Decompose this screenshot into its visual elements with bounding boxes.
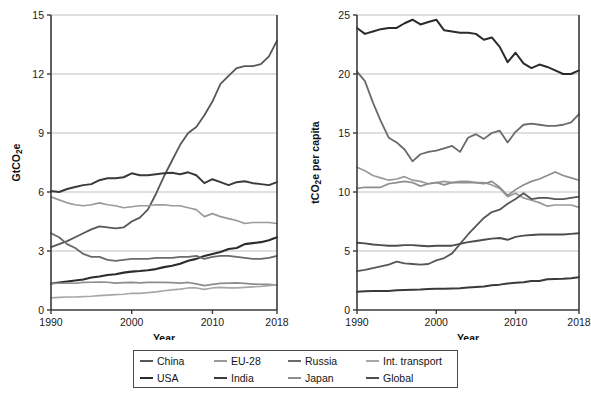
legend-item-int-transport[interactable]: Int. transport [366, 353, 461, 370]
line-chart-right: 05101520251990200020102018YeartCO2e per … [300, 0, 591, 340]
legend-item-global[interactable]: Global [366, 370, 461, 387]
series-line-china [51, 41, 277, 248]
y-tick-label: 0 [344, 304, 350, 316]
legend-label: Japan [305, 372, 334, 384]
legend-swatch-icon [140, 377, 153, 379]
chart-panel-right: 05101520251990200020102018YeartCO2e per … [300, 0, 591, 340]
legend-swatch-icon [288, 377, 301, 379]
series-line-int-transport [51, 285, 277, 298]
legend-swatch-icon [214, 360, 227, 362]
legend-item-usa[interactable]: USA [140, 370, 214, 387]
legend-swatch-icon [366, 360, 379, 362]
x-tick-label: 1990 [345, 316, 369, 328]
series-line-russia [357, 72, 579, 162]
series-line-india [357, 277, 579, 292]
y-tick-label: 9 [38, 127, 44, 139]
legend-item-india[interactable]: India [214, 370, 288, 387]
legend-label: Int. transport [383, 355, 442, 367]
legend-label: Russia [305, 355, 337, 367]
legend-item-china[interactable]: China [140, 353, 214, 370]
line-chart-left: 036912151990200020102018YearGtCO2e [0, 0, 300, 340]
legend-label: Global [383, 372, 413, 384]
y-tick-label: 5 [344, 245, 350, 257]
x-tick-label: 2000 [120, 316, 144, 328]
series-line-india [51, 237, 277, 283]
y-tick-label: 6 [38, 186, 44, 198]
legend-swatch-icon [214, 377, 227, 379]
chart-legend: ChinaEU-28RussiaInt. transportUSAIndiaJa… [133, 350, 458, 388]
legend-label: India [231, 372, 254, 384]
figure-root: 036912151990200020102018YearGtCO2e 05101… [0, 0, 591, 395]
legend-item-eu-28[interactable]: EU-28 [214, 353, 288, 370]
y-axis-title: GtCO2e [10, 143, 24, 181]
x-tick-label: 2010 [504, 316, 528, 328]
y-tick-label: 15 [338, 127, 350, 139]
legend-item-japan[interactable]: Japan [288, 370, 366, 387]
legend-swatch-icon [366, 377, 379, 379]
chart-panel-left: 036912151990200020102018YearGtCO2e [0, 0, 300, 340]
x-tick-label: 2018 [265, 316, 289, 328]
series-line-eu-28 [51, 197, 277, 224]
legend-swatch-icon [288, 360, 301, 362]
series-line-eu-28 [357, 167, 579, 207]
y-tick-label: 10 [338, 186, 350, 198]
y-tick-label: 25 [338, 9, 350, 21]
y-tick-label: 12 [32, 68, 44, 80]
legend-swatch-icon [140, 360, 153, 362]
legend-item-russia[interactable]: Russia [288, 353, 366, 370]
x-axis-title: Year [153, 332, 175, 340]
series-line-usa [357, 20, 579, 74]
legend-label: USA [157, 372, 179, 384]
x-tick-label: 2010 [201, 316, 225, 328]
y-tick-label: 0 [38, 304, 44, 316]
legend-label: EU-28 [231, 355, 261, 367]
x-axis-title: Year [457, 332, 479, 340]
x-tick-label: 1990 [39, 316, 63, 328]
x-tick-label: 2018 [567, 316, 591, 328]
x-tick-label: 2000 [425, 316, 449, 328]
y-axis-title: tCO2e per capita [309, 121, 323, 203]
y-tick-label: 3 [38, 245, 44, 257]
y-tick-label: 15 [32, 9, 44, 21]
legend-grid: ChinaEU-28RussiaInt. transportUSAIndiaJa… [134, 351, 457, 387]
y-tick-label: 20 [338, 68, 350, 80]
series-line-russia [51, 233, 277, 261]
series-line-japan [51, 282, 277, 286]
legend-label: China [157, 355, 184, 367]
